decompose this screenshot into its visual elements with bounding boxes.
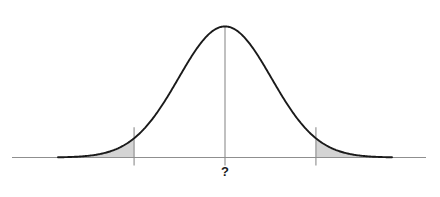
normal-distribution-figure: ? bbox=[0, 0, 440, 197]
center-question-mark-label: ? bbox=[0, 165, 440, 179]
